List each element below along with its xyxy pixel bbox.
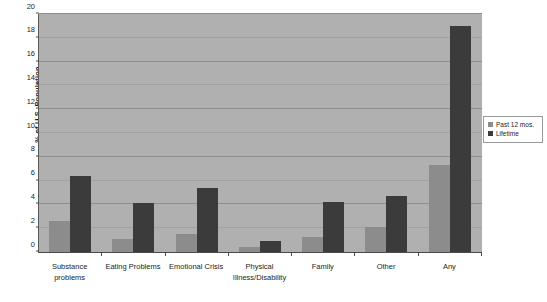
x-tick-mark	[228, 252, 229, 256]
legend-swatch-icon	[488, 122, 493, 127]
bar-group	[354, 14, 417, 252]
y-tick-label: 8	[31, 144, 35, 153]
bar	[365, 227, 386, 252]
bar-group	[291, 14, 354, 252]
x-axis-line	[38, 252, 482, 253]
x-axis-label: Other	[354, 261, 417, 272]
y-tick-label: 4	[31, 191, 35, 200]
y-tick-label: 16	[27, 49, 35, 58]
chart-legend: Past 12 mos. Lifetime	[483, 116, 543, 143]
x-axis-label: Emotional Crisis	[165, 261, 228, 272]
legend-label: Lifetime	[496, 130, 519, 137]
bar	[323, 202, 344, 252]
legend-item-past-12-mos: Past 12 mos.	[488, 121, 539, 128]
bar	[302, 237, 323, 252]
y-tick-label: 6	[31, 168, 35, 177]
x-tick-mark	[291, 252, 292, 256]
y-tick-label: 2	[31, 215, 35, 224]
legend-swatch-icon	[488, 131, 493, 136]
bar	[260, 241, 281, 252]
y-tick-label: 18	[27, 25, 35, 34]
bar-group	[165, 14, 228, 252]
x-axis-label: Physical Illness/Disability	[228, 261, 291, 283]
y-tick-label: 14	[27, 72, 35, 81]
bar-chart: % of U.S. Population 02468101214161820 S…	[0, 0, 547, 302]
bar	[70, 176, 91, 252]
bar-group	[101, 14, 164, 252]
x-axis-label: Family	[291, 261, 354, 272]
bar-group	[228, 14, 291, 252]
x-axis-label: Any	[418, 261, 481, 272]
bars-layer	[38, 14, 481, 252]
x-tick-mark	[354, 252, 355, 256]
bar	[133, 203, 154, 252]
bar	[386, 196, 407, 252]
bar	[112, 239, 133, 252]
x-tick-mark	[101, 252, 102, 256]
x-tick-mark	[481, 252, 482, 256]
x-tick-mark	[418, 252, 419, 256]
bar	[176, 234, 197, 252]
bar-group	[38, 14, 101, 252]
y-tick-label: 12	[27, 96, 35, 105]
legend-label: Past 12 mos.	[496, 121, 534, 128]
bar-group	[418, 14, 481, 252]
y-tick-label: 10	[27, 120, 35, 129]
x-axis-label: Eating Problems	[101, 261, 164, 272]
legend-item-lifetime: Lifetime	[488, 130, 539, 137]
bar	[49, 221, 70, 252]
bar	[429, 165, 450, 252]
bar	[450, 26, 471, 252]
x-tick-mark	[165, 252, 166, 256]
y-tick-label: 0	[31, 239, 35, 248]
bar	[197, 188, 218, 252]
x-axis-label: Substance problems	[38, 261, 101, 283]
y-tick-label: 20	[27, 1, 35, 10]
